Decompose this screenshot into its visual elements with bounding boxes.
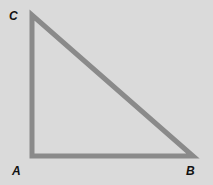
triangle-figure [0, 0, 213, 185]
vertex-label-b: B [186, 164, 195, 178]
triangle-abc [32, 15, 193, 156]
vertex-label-a: A [12, 164, 21, 178]
vertex-label-c: C [9, 9, 18, 23]
